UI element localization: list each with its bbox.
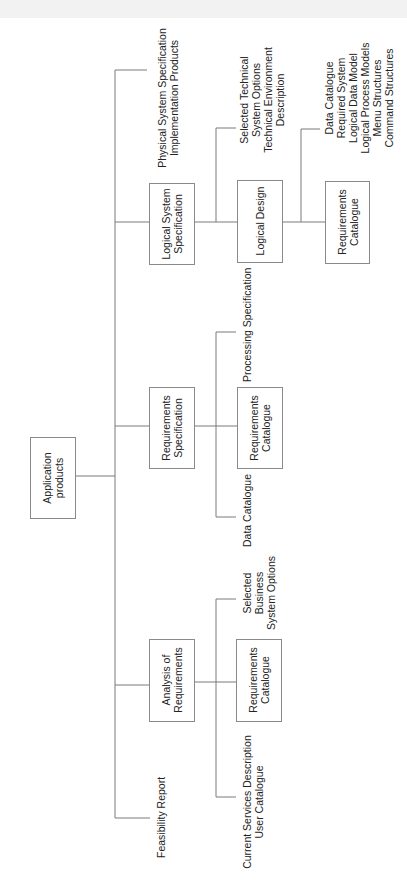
label-analysis-of-requirements: Analysis of Requirements [160, 639, 184, 721]
label-line: Requirements [247, 639, 259, 721]
label-line: Requirements [160, 388, 172, 468]
leaf-current-services-description: Current Services Description User Catalo… [241, 732, 265, 872]
leaf-data-catalogue-rs: Data Catalogue [241, 467, 253, 547]
label-line: Requirements [248, 388, 260, 468]
label-line: Selected [241, 553, 253, 633]
label-line: Menu Structures [371, 28, 383, 168]
root-label: Application products [41, 438, 65, 518]
label-line: Selected Technical [238, 35, 250, 165]
leaf-feasibility-report: Feasibility Report [155, 778, 167, 858]
leaf-processing-specification: Processing Specification [241, 252, 253, 382]
label-line: Specification [172, 184, 184, 264]
label-line: Logical Process Models [359, 28, 371, 168]
label-line: Description [274, 35, 286, 165]
label-line: Technical Environment [262, 35, 274, 165]
label-line: Requirements [336, 181, 348, 263]
label-requirements-catalogue-rs: Requirements Catalogue [248, 388, 272, 468]
label-line: Processing Specification [241, 252, 253, 382]
leaf-rc-outputs: Data Catalogue Required System Logical D… [323, 28, 395, 168]
label-line: System Options [250, 35, 262, 165]
label-line: System Options [265, 553, 277, 633]
label-line: Catalogue [260, 388, 272, 468]
label-line: Physical System Specification [156, 28, 168, 168]
label-line: Data Catalogue [323, 28, 335, 168]
label-line: Logical Design [254, 180, 266, 262]
label-logical-design: Logical Design [254, 180, 266, 262]
leaf-selected-technical-system-options: Selected Technical System Options Techni… [238, 35, 286, 165]
label-line: Required System [335, 28, 347, 168]
label-requirements-catalogue-aor: Requirements Catalogue [247, 639, 271, 721]
label-line: Logical Data Model [347, 28, 359, 168]
leaf-selected-business-system-options: Selected Business System Options [241, 553, 277, 633]
label-line: Data Catalogue [241, 467, 253, 547]
leaf-physical-system-specification: Physical System Specification Implementa… [156, 28, 180, 168]
label-line: products [53, 438, 65, 518]
label-line: Implementation Products [168, 28, 180, 168]
label-line: Current Services Description [241, 732, 253, 872]
label-line: Catalogue [259, 639, 271, 721]
label-line: Specification [172, 388, 184, 468]
label-line: Logical System [160, 184, 172, 264]
label-logical-system-specification: Logical System Specification [160, 184, 184, 264]
label-requirements-catalogue-ld: Requirements Catalogue [336, 181, 360, 263]
label-line: Command Structures [383, 28, 395, 168]
label-line: Business [253, 553, 265, 633]
label-line: Analysis of [160, 639, 172, 721]
label-requirements-specification: Requirements Specification [160, 388, 184, 468]
label-line: Requirements [172, 639, 184, 721]
label-line: Feasibility Report [155, 778, 167, 858]
label-line: Catalogue [348, 181, 360, 263]
label-line: Application [41, 438, 53, 518]
label-line: User Catalogue [253, 732, 265, 872]
